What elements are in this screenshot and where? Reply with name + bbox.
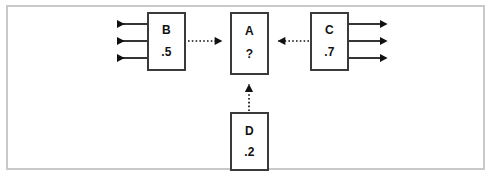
node-box-b[interactable]: B .5	[147, 12, 186, 71]
node-c-value: .7	[324, 46, 334, 58]
node-c-label: C	[325, 24, 334, 36]
node-box-c[interactable]: C .7	[310, 12, 349, 71]
node-b-label: B	[162, 24, 171, 36]
node-d-label: D	[245, 125, 254, 137]
diagram-canvas: B .5 A ? C .7 D .2	[0, 0, 493, 182]
node-a-label: A	[245, 25, 254, 37]
node-b-value: .5	[161, 46, 171, 58]
node-box-a[interactable]: A ?	[230, 12, 269, 75]
node-d-value: .2	[244, 146, 254, 158]
node-box-d[interactable]: D .2	[230, 112, 269, 171]
arrow-group-left-outputs	[117, 24, 147, 58]
node-a-value: ?	[246, 48, 254, 60]
arrow-group-right-outputs	[349, 24, 380, 58]
